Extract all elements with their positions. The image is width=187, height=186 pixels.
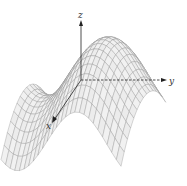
y-axis-label: y (168, 76, 175, 86)
z-axis-label: z (77, 10, 83, 20)
wireframe-surface (1, 37, 166, 171)
surface-diagram: z y x (0, 0, 187, 186)
x-axis-label: x (46, 121, 51, 131)
z-axis-arrowhead (79, 20, 83, 26)
y-axis-arrowhead (161, 78, 167, 82)
